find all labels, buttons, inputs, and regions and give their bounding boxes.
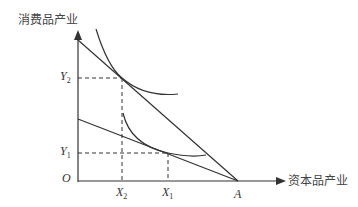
upper-indifference-curve [96, 29, 178, 94]
origin-label: O [62, 172, 71, 184]
y2-label: Y2 [60, 70, 71, 85]
x-axis-arrow-icon [276, 177, 286, 185]
point-a-label: A [234, 188, 241, 200]
x1-label: X1 [162, 186, 173, 201]
y-axis-label: 消费品产业 [18, 14, 78, 26]
x2-label: X2 [116, 186, 127, 201]
y-axis-arrow-icon [74, 30, 82, 40]
lower-indifference-curve [123, 113, 206, 156]
x-axis-label: 资本品产业 [288, 175, 348, 187]
y1-label: Y1 [60, 145, 71, 160]
upper-budget-line [78, 40, 238, 181]
